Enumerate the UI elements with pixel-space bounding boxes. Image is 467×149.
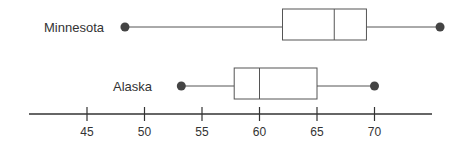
box-plot-chart: MinnesotaAlaska 455055606570 <box>0 0 467 149</box>
iqr-box <box>283 9 367 40</box>
max-point <box>436 23 445 32</box>
series-label: Alaska <box>113 79 153 94</box>
tick-label: 45 <box>80 125 94 139</box>
tick-label: 60 <box>253 125 267 139</box>
tick-label: 70 <box>368 125 382 139</box>
tick-label: 50 <box>138 125 152 139</box>
tick-label: 55 <box>195 125 209 139</box>
x-axis: 455055606570 <box>29 107 432 139</box>
tick-label: 65 <box>310 125 324 139</box>
iqr-box <box>234 68 317 99</box>
min-point <box>177 82 186 91</box>
box-alaska: Alaska <box>113 68 379 99</box>
box-minnesota: Minnesota <box>44 9 445 40</box>
series-label: Minnesota <box>44 20 105 35</box>
min-point <box>120 23 129 32</box>
box-plot-series: MinnesotaAlaska <box>44 9 445 99</box>
max-point <box>370 82 379 91</box>
